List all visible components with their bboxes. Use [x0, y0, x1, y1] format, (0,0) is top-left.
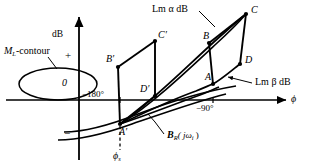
segment-Ap-Bp: [118, 67, 120, 124]
point-label-C: C: [251, 5, 258, 15]
y-axis-minus-sign: −: [64, 128, 70, 139]
point-label-B: B: [203, 31, 209, 41]
br-close-paren: ): [194, 130, 199, 140]
lm-alpha-leader-line: [199, 11, 215, 27]
point-label-C-prime: C′: [158, 30, 167, 40]
segment-Bp-Cp: [118, 41, 155, 67]
m-contour-leader-line: [48, 57, 57, 69]
segment-B-C: [209, 14, 246, 43]
point-Bp-marker: [116, 65, 120, 69]
origin-zero-label: 0: [62, 78, 67, 88]
phi-s-subscript: s: [118, 155, 121, 162]
m-contour-label: ML-contour: [4, 46, 50, 58]
point-A-marker: [211, 82, 215, 86]
point-label-D-prime: D′: [140, 84, 149, 94]
br-jw-label: BR( jωi ): [167, 130, 199, 142]
x-tick-label-minus-180: −180°: [82, 90, 104, 99]
x-tick-label-minus-90: −90°: [196, 104, 214, 113]
br-jw-leader-line: [148, 114, 164, 134]
br-argument: ( jω: [178, 130, 192, 140]
point-C-marker: [244, 12, 248, 16]
x-axis-label-phi: ϕ: [291, 94, 296, 104]
lm-beta-leader-line: [228, 77, 252, 83]
m-contour-suffix: -contour: [16, 45, 50, 56]
y-axis-plus-sign: +: [65, 50, 71, 61]
y-axis-label: dB: [52, 30, 63, 40]
point-label-A-prime: A′: [119, 127, 127, 137]
curve-br-jw-ext-to-D: [213, 64, 240, 84]
point-D-marker: [238, 62, 242, 66]
br-symbol: B: [167, 129, 174, 140]
phi-s-label: ϕs: [113, 151, 121, 163]
point-B-marker: [207, 41, 211, 45]
nichols-chart-figure: dB + − 0 −180° −90° ϕ ML-contour Lm α dB…: [0, 0, 309, 167]
point-Dp-marker: [153, 94, 157, 98]
point-label-D: D: [245, 55, 252, 65]
point-label-A: A: [205, 72, 211, 82]
point-Cp-marker: [153, 39, 157, 43]
point-label-B-prime: B′: [106, 54, 114, 64]
lm-beta-label: Lm β dB: [255, 77, 291, 87]
lm-alpha-label: Lm α dB: [152, 4, 188, 14]
